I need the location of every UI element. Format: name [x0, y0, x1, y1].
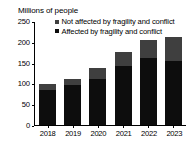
bar-segment-not-affected[interactable] [115, 52, 132, 66]
x-axis-tick-layer: 201820192020202120222023 [35, 129, 187, 138]
x-axis-tick-mark [98, 126, 99, 128]
chart-container: Millions of people Not affected by fragi… [0, 0, 189, 147]
x-axis-tick-label: 2021 [115, 129, 132, 138]
y-axis-tick-label: 150 [4, 60, 30, 68]
y-axis-tick-label: 50 [4, 101, 30, 109]
bar-group-2023[interactable] [165, 22, 182, 125]
y-axis-tick-label: 0 [4, 122, 30, 130]
x-axis-tick-label: 2019 [64, 129, 81, 138]
x-axis-tick-mark [148, 126, 149, 128]
bar-group-2019[interactable] [64, 22, 81, 125]
x-axis-tick-label: 2022 [140, 129, 157, 138]
y-axis-tick-label: 100 [4, 80, 30, 88]
y-axis-tick-label: 200 [4, 39, 30, 47]
bar-segment-not-affected[interactable] [89, 68, 106, 79]
bar-segment-not-affected[interactable] [140, 40, 157, 58]
bar-segment-not-affected[interactable] [165, 37, 182, 61]
x-axis-tick-mark [173, 126, 174, 128]
bar-segment-affected[interactable] [39, 90, 56, 125]
bar-group-2020[interactable] [89, 22, 106, 125]
bar-segment-affected[interactable] [115, 66, 132, 125]
x-axis-line [34, 125, 186, 126]
axis-unit-title: Millions of people [18, 6, 78, 15]
y-axis-tick-mark [32, 126, 34, 127]
bar-group-2022[interactable] [140, 22, 157, 125]
x-axis-tick-label: 2020 [90, 129, 107, 138]
bar-segment-affected[interactable] [64, 85, 81, 125]
y-axis-tick-label: 250 [4, 18, 30, 26]
bar-group-2018[interactable] [39, 22, 56, 125]
bar-segment-affected[interactable] [89, 79, 106, 125]
x-axis-tick-mark [48, 126, 49, 128]
bar-series-layer [35, 22, 186, 125]
x-axis-tick-label: 2018 [39, 129, 56, 138]
bar-segment-affected[interactable] [165, 61, 182, 125]
plot-area [34, 22, 186, 126]
x-axis-tick-mark [73, 126, 74, 128]
x-axis-tick-label: 2023 [166, 129, 183, 138]
x-axis-tick-mark [123, 126, 124, 128]
bar-segment-affected[interactable] [140, 58, 157, 125]
bar-group-2021[interactable] [115, 22, 132, 125]
